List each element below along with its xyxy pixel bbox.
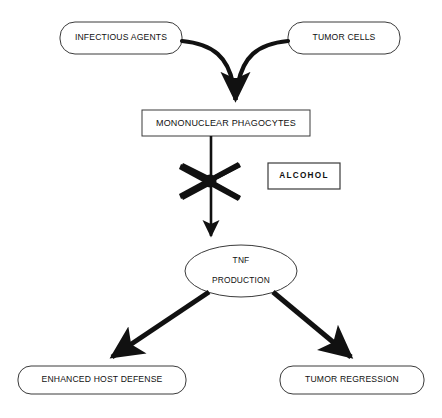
diagram-canvas: INFECTIOUS AGENTS TUMOR CELLS MONONUCLEA… bbox=[0, 0, 442, 418]
node-alcohol bbox=[268, 163, 340, 189]
node-tnf-production bbox=[185, 245, 297, 297]
diagram-graphics bbox=[0, 0, 442, 418]
node-enhanced-host-defense bbox=[18, 366, 186, 394]
edge-infectious-to-phagocytes bbox=[182, 41, 233, 84]
node-tumor-regression bbox=[280, 366, 424, 394]
node-mononuclear-phagocytes bbox=[142, 110, 310, 136]
edge-tumor-cells-to-phagocytes bbox=[238, 41, 288, 84]
node-infectious-agents bbox=[60, 22, 182, 54]
edge-tnf-to-enhanced-host-defense bbox=[112, 292, 209, 357]
edge-tnf-to-tumor-regression bbox=[273, 292, 351, 357]
node-tumor-cells bbox=[288, 22, 400, 54]
